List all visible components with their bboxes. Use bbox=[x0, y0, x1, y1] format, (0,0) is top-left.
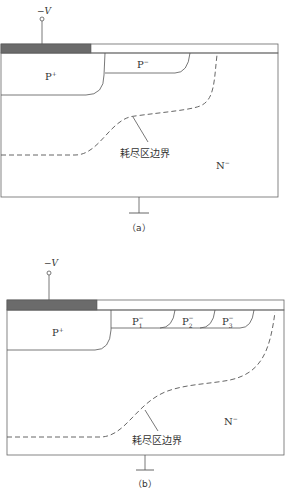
terminal-label-b: −V bbox=[44, 258, 60, 268]
diagram-a: −V P+ P− 耗尽区边界 N− （a） bbox=[1, 6, 278, 233]
n-substrate bbox=[7, 310, 284, 455]
p2-label: P2− bbox=[182, 314, 194, 329]
caption-a: （a） bbox=[127, 223, 151, 233]
junction-termination-diagram: −V P+ P− 耗尽区边界 N− （a） −V bbox=[0, 0, 290, 494]
leader-line-a bbox=[133, 117, 148, 142]
metal-contact bbox=[1, 44, 91, 53]
p-plus-label-b: P+ bbox=[52, 326, 64, 338]
p3-label: P3− bbox=[222, 314, 234, 329]
depletion-label-b: 耗尽区边界 bbox=[132, 435, 182, 446]
terminal-node-icon bbox=[47, 271, 51, 275]
p-plus-label-a: P+ bbox=[45, 70, 57, 82]
caption-b: （b） bbox=[133, 479, 157, 489]
n-minus-label-b: N− bbox=[224, 415, 238, 427]
diagram-b: −V P+ P1− P2− P3− 耗尽区边界 N− （b） bbox=[7, 258, 284, 489]
terminal-node-icon bbox=[40, 17, 44, 21]
n-minus-label-a: N− bbox=[216, 159, 230, 171]
p1-label: P1− bbox=[132, 314, 144, 329]
leader-line-b bbox=[145, 410, 158, 431]
depletion-boundary-a bbox=[1, 55, 217, 155]
terminal-label-a: −V bbox=[37, 6, 53, 16]
p-minus-label-a: P− bbox=[137, 58, 149, 70]
metal-contact bbox=[7, 300, 97, 310]
n-substrate bbox=[1, 53, 278, 197]
depletion-label-a: 耗尽区边界 bbox=[120, 148, 170, 159]
